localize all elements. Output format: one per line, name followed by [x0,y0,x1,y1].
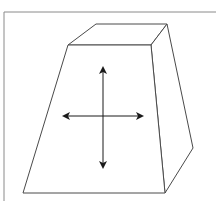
diagram-canvas [0,0,216,201]
frustum-top-face [68,24,167,45]
frustum-diagram [0,0,216,201]
frustum-front-face [23,45,165,193]
